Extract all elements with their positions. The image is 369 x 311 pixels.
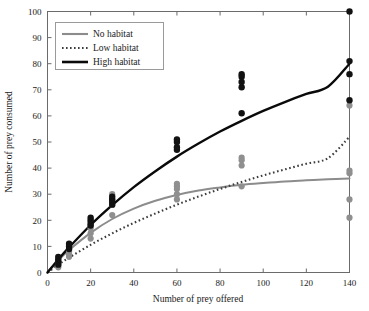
x-tick-label: 120 [300,278,314,288]
x-tick-label: 80 [216,278,226,288]
y-tick-label: 40 [33,163,43,173]
x-tick-label: 140 [343,278,357,288]
series-curve-2 [48,64,350,273]
x-tick-label: 60 [172,278,182,288]
x-tick-label: 20 [86,278,96,288]
y-tick-label: 70 [33,85,43,95]
data-point [55,254,61,260]
data-point [346,71,352,77]
data-point [239,155,245,161]
data-point [346,168,352,174]
x-tick-label: 40 [129,278,139,288]
y-tick-label: 0 [37,268,42,278]
y-tick-label: 10 [33,242,43,252]
data-point [87,214,93,220]
data-point [346,8,352,14]
data-point [346,215,352,221]
y-tick-label: 60 [33,111,43,121]
series-curves [48,64,350,273]
y-axis-tick-labels: 0102030405060708090100 [28,7,42,278]
legend-label-0: No habitat [93,29,133,39]
data-point [66,241,72,247]
x-axis-tick-labels: 020406080100120140 [45,278,357,288]
y-tick-label: 100 [28,7,42,17]
y-tick-label: 90 [33,33,43,43]
data-point [109,194,115,200]
x-tick-label: 0 [45,278,50,288]
legend-label-2: High habitat [93,57,141,67]
data-point [346,58,352,64]
chart-legend: No habitatLow habitatHigh habitat [56,23,164,70]
data-point [346,97,352,103]
data-point [109,212,115,218]
y-tick-label: 20 [33,216,43,226]
x-axis-title: Number of prey offered [153,294,244,304]
x-tick-label: 100 [256,278,270,288]
data-point [238,71,244,77]
y-tick-label: 50 [33,137,43,147]
y-tick-label: 30 [33,189,43,199]
data-point [346,196,352,202]
data-point [174,136,180,142]
series-curve-1 [48,137,350,273]
y-axis-ticks [48,12,52,273]
figure-container: 0102030405060708090100 02040608010012014… [0,0,369,311]
scatter-plot: 0102030405060708090100 02040608010012014… [0,0,369,311]
y-tick-label: 80 [33,59,43,69]
data-point [238,110,244,116]
data-point [239,183,245,189]
data-point [174,181,180,187]
legend-label-1: Low habitat [93,43,139,53]
y-axis-title: Number of prey consumed [4,91,14,193]
